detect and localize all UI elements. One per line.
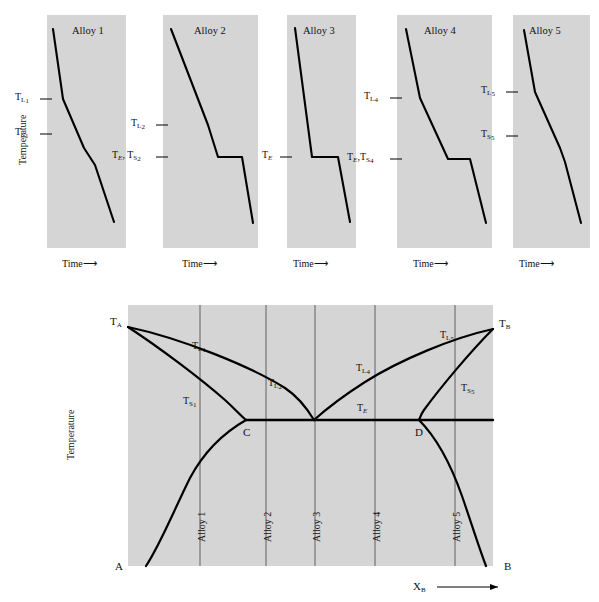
label-TL4-diagram: TL4 [356, 363, 370, 376]
phase-diagram-y-axis-label: Temperature [66, 410, 76, 460]
label-TS1-diagram: TS1 [183, 396, 197, 409]
phase-diagram-group: Temperature TA TB A B C D TL1 TL2 TS1 TE… [0, 0, 599, 602]
label-TL2-diagram: TL2 [268, 378, 282, 391]
label-TL1-diagram: TL1 [192, 341, 206, 354]
x-axis-arrow-head [490, 584, 498, 590]
alloy-line-label-4: Alloy 4 [372, 512, 382, 542]
alloy-line-label-2: Alloy 2 [263, 512, 273, 542]
label-TB: TB [499, 318, 510, 331]
figure-root: Temperature Alloy 1 Alloy 2 Alloy 3 Allo… [0, 0, 599, 602]
x-axis-label-sub: B [421, 586, 426, 594]
label-point-C: C [243, 427, 250, 438]
label-corner-B: B [504, 561, 511, 572]
label-TE-diagram: TE [357, 403, 367, 415]
phase-diagram-x-axis-label: XB [413, 581, 426, 594]
label-point-D: D [415, 427, 423, 438]
alloy-line-label-5: Alloy 5 [452, 512, 462, 542]
label-corner-A: A [115, 561, 123, 572]
alloy-line-label-3: Alloy 3 [312, 512, 322, 542]
phase-diagram-canvas [0, 0, 599, 602]
label-TS5-diagram: TS5 [461, 383, 475, 396]
label-TL5-diagram: TL5 [440, 330, 454, 343]
alloy-line-label-1: Alloy 1 [197, 512, 207, 542]
label-TA: TA [110, 316, 122, 329]
x-axis-label-base: X [413, 580, 421, 592]
